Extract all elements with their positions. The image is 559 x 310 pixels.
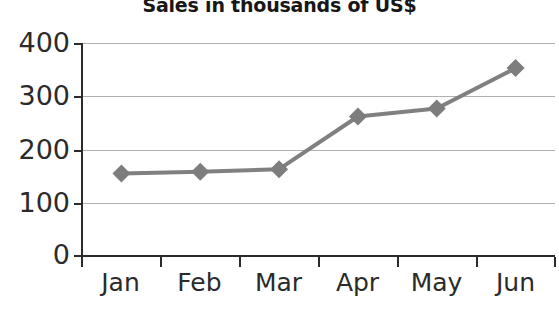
data-point-jan (112, 164, 130, 182)
line-chart: Sales in thousands of US$ 400 300 200 10… (0, 0, 559, 310)
data-point-may (428, 99, 446, 117)
series-markers-sales (112, 59, 524, 182)
data-point-jun (507, 59, 525, 77)
series-line-sales (121, 68, 515, 173)
data-series-layer (0, 0, 559, 310)
data-point-feb (191, 163, 209, 181)
